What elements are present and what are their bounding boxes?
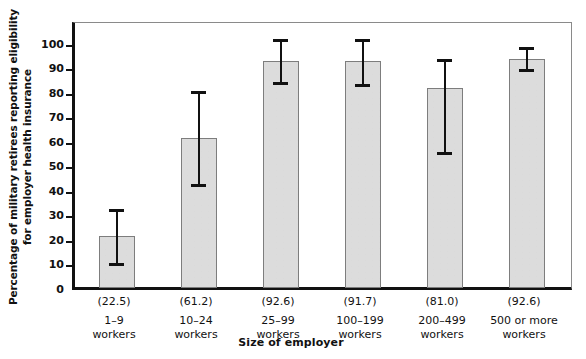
error-bar-cap-lower-100-199-workers <box>355 84 370 87</box>
y-tick-label-50: 50 <box>18 161 64 172</box>
y-tick-label-60: 60 <box>18 137 64 148</box>
error-bar-cap-upper-25-99-workers <box>273 39 288 42</box>
y-tick-mark-20 <box>66 241 75 243</box>
bar-25-99-workers <box>263 61 299 288</box>
error-bar-cap-lower-1-9-workers <box>109 263 124 266</box>
error-bar-cap-lower-500-or-more-workers <box>519 69 534 72</box>
x-axis-title-text: Size of employer <box>238 336 343 349</box>
y-tick-mark-60 <box>66 143 75 145</box>
error-bar-cap-lower-200-499-workers <box>437 152 452 155</box>
y-tick-label-80: 80 <box>18 88 64 99</box>
error-bar-cap-upper-200-499-workers <box>437 59 452 62</box>
bar-100-199-workers <box>345 61 381 288</box>
error-bar-line-10-24-workers <box>198 91 200 184</box>
plot-inner <box>75 23 571 287</box>
plot-area <box>72 22 572 290</box>
y-tick-label-10: 10 <box>18 259 64 270</box>
y-tick-label-30: 30 <box>18 210 64 221</box>
y-tick-mark-50 <box>66 167 75 169</box>
error-bar-line-100-199-workers <box>362 39 364 84</box>
y-tick-label-20: 20 <box>18 235 64 246</box>
error-bar-line-25-99-workers <box>280 39 282 82</box>
bar-500-or-more-workers <box>509 59 545 288</box>
error-bar-cap-lower-25-99-workers <box>273 82 288 85</box>
y-tick-label-0: 0 <box>18 284 64 295</box>
y-axis-title-line-1: Percentage of military retirees reportin… <box>7 9 19 305</box>
y-tick-mark-30 <box>66 216 75 218</box>
y-tick-label-70: 70 <box>18 112 64 123</box>
error-bar-cap-upper-500-or-more-workers <box>519 47 534 50</box>
y-tick-mark-80 <box>66 94 75 96</box>
category-label-6-line-1: 500 or more <box>464 314 584 329</box>
error-bar-cap-upper-10-24-workers <box>191 91 206 94</box>
error-bar-cap-lower-10-24-workers <box>191 184 206 187</box>
error-bar-line-200-499-workers <box>444 59 446 152</box>
x-axis-title: Size of employer <box>0 336 586 349</box>
y-tick-mark-40 <box>66 192 75 194</box>
y-tick-mark-100 <box>66 45 75 47</box>
y-tick-mark-10 <box>66 265 75 267</box>
sample-size-label-6: (92.6) <box>464 295 584 310</box>
y-tick-label-100: 100 <box>18 39 64 50</box>
y-tick-mark-90 <box>66 69 75 71</box>
y-tick-label-90: 90 <box>18 63 64 74</box>
error-bar-line-500-or-more-workers <box>526 47 528 69</box>
y-tick-mark-70 <box>66 118 75 120</box>
y-tick-label-40: 40 <box>18 186 64 197</box>
error-bar-cap-upper-100-199-workers <box>355 39 370 42</box>
error-bar-line-1-9-workers <box>116 209 118 263</box>
error-bar-cap-upper-1-9-workers <box>109 209 124 212</box>
chart-figure: Percentage of military retirees reportin… <box>0 0 586 359</box>
